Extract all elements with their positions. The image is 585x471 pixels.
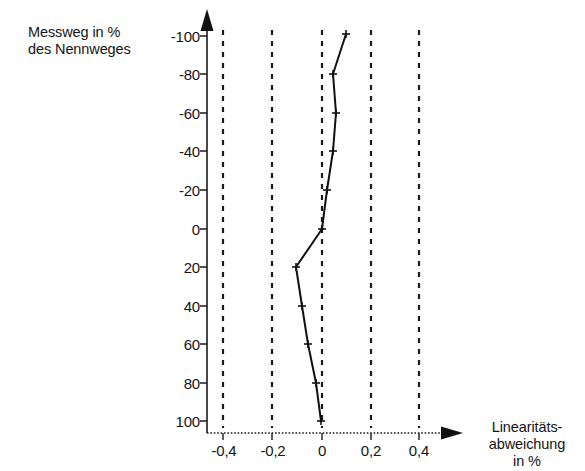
linearity-deviation-chart: Messweg in % des Nennweges Linearitäts- …	[0, 0, 585, 471]
x-axis-tick-labels: -0,4 -0,2 0 0,2 0,4	[0, 0, 585, 471]
x-tick-label: 0,2	[361, 442, 381, 459]
x-tick-label: 0,4	[409, 442, 429, 459]
x-tick-label: -0,2	[260, 442, 285, 459]
x-tick-label: -0,4	[211, 442, 236, 459]
x-tick-label: 0	[318, 442, 326, 459]
